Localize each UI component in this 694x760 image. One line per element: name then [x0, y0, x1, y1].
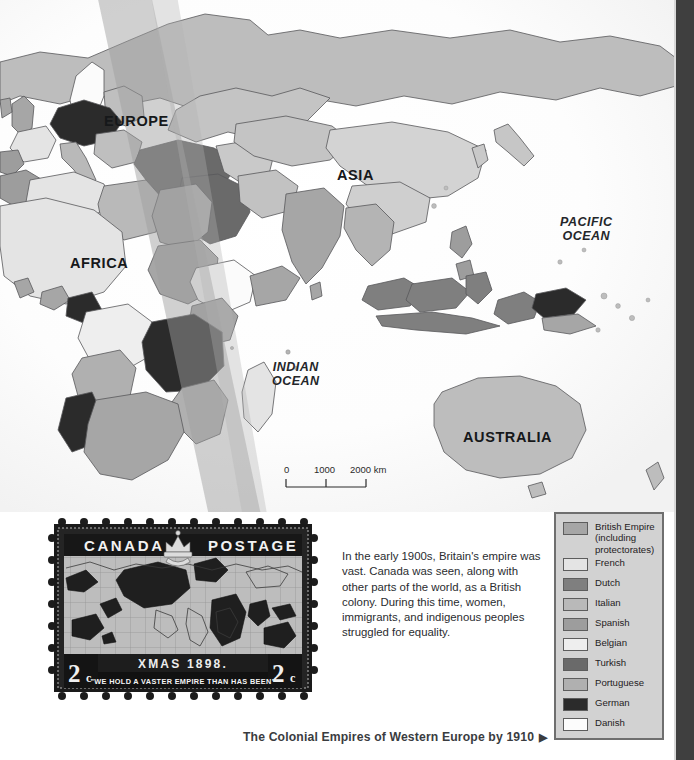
legend-item-belgian: Belgian: [556, 637, 662, 655]
legend-swatch-british-empire: [563, 522, 588, 535]
stamp-world-map: [64, 556, 302, 662]
map-scale-bar: 0 1000 2000 km: [284, 464, 394, 490]
map-label-asia: ASIA: [337, 167, 374, 183]
stamp-date-line: XMAS 1898.: [138, 657, 228, 671]
legend-swatch-german: [563, 698, 588, 711]
legend-swatch-spanish: [563, 618, 588, 631]
legend-item-french: French: [556, 557, 662, 575]
svg-text:CANADA: CANADA: [84, 537, 165, 554]
legend-label-portuguese: Portuguese: [595, 677, 644, 688]
legend-label-dutch: Dutch: [595, 577, 620, 588]
svg-text:c: c: [290, 671, 296, 685]
legend-label-french: French: [595, 557, 625, 568]
legend-item-portuguese: Portuguese: [556, 677, 662, 695]
region-australia: [434, 376, 586, 478]
stamp-footer: 2 c 2 c XMAS 1898. "WE HOLD A VASTER EMP…: [64, 654, 302, 688]
legend-label-british-empire: British Empire (including protectorates): [595, 521, 655, 555]
legend-label-italian: Italian: [595, 597, 621, 608]
legend-swatch-italian: [563, 598, 588, 611]
map-label-africa: AFRICA: [70, 255, 128, 271]
legend-label-belgian: Belgian: [595, 637, 627, 648]
map-label-pacific-ocean: PACIFIC OCEAN: [560, 215, 613, 243]
scale-tick-2000: 2000 km: [350, 464, 386, 475]
page-edge-strip: [676, 0, 694, 760]
legend-label-german: German: [595, 697, 630, 708]
legend-label-danish: Danish: [595, 717, 625, 728]
legend-item-british-empire: British Empire (including protectorates): [556, 521, 662, 555]
legend-swatch-portuguese: [563, 678, 588, 691]
map-label-indian-ocean: INDIAN OCEAN: [272, 360, 320, 388]
stamp-artwork: CANADA POSTAGE 2 c 2 c: [40, 512, 326, 712]
legend-item-german: German: [556, 697, 662, 715]
infographic-page: EUROPE AFRICA ASIA AUSTRALIA PACIFIC OCE…: [0, 0, 694, 760]
scale-tick-1000: 1000: [314, 464, 335, 475]
legend-item-italian: Italian: [556, 597, 662, 615]
stamp-denomination-left: 2: [68, 660, 81, 687]
legend-swatch-french: [563, 558, 588, 571]
map-label-europe: EUROPE: [104, 113, 169, 129]
map-label-australia: AUSTRALIA: [463, 429, 552, 445]
legend-item-turkish: Turkish: [556, 657, 662, 675]
svg-text:POSTAGE: POSTAGE: [208, 537, 298, 554]
figure-caption: The Colonial Empires of Western Europe b…: [243, 730, 547, 744]
scale-bar-ruler: [284, 478, 384, 490]
body-text: In the early 1900s, Britain's empire was…: [342, 549, 542, 641]
legend-swatch-dutch: [563, 578, 588, 591]
legend-label-turkish: Turkish: [595, 657, 626, 668]
legend-swatch-belgian: [563, 638, 588, 651]
legend-label-spanish: Spanish: [595, 617, 630, 628]
canada-postage-stamp: CANADA POSTAGE 2 c 2 c: [40, 512, 326, 712]
map-legend: British Empire (including protectorates)…: [554, 512, 664, 740]
figure-caption-text: The Colonial Empires of Western Europe b…: [243, 730, 534, 744]
legend-item-danish: Danish: [556, 717, 662, 735]
legend-item-dutch: Dutch: [556, 577, 662, 595]
legend-swatch-danish: [563, 718, 588, 731]
legend-swatch-turkish: [563, 658, 588, 671]
caption-arrow-icon: ▶: [539, 731, 547, 743]
legend-item-spanish: Spanish: [556, 617, 662, 635]
scale-tick-0: 0: [284, 464, 289, 475]
stamp-motto: "WE HOLD A VASTER EMPIRE THAN HAS BEEN": [91, 677, 276, 686]
